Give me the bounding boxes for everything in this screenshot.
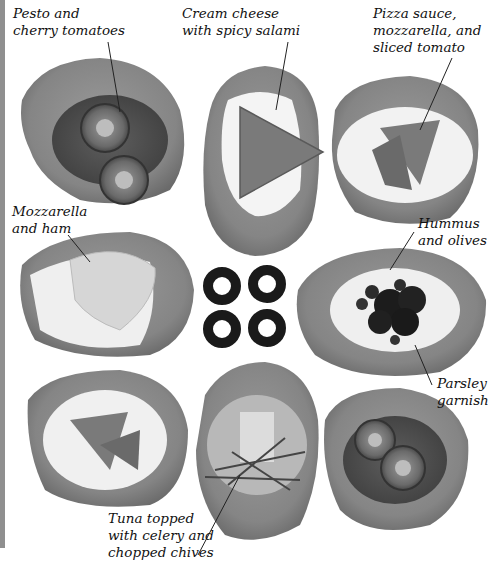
olive-ring <box>208 315 236 343</box>
crostini-pesto-2 <box>324 388 468 530</box>
label-mozzarella-ham: Mozzarella and ham <box>12 203 87 237</box>
olive-ring <box>208 272 236 300</box>
label-hummus: Hummus and olives <box>418 215 487 249</box>
crostini-tuna <box>196 362 319 540</box>
label-pesto: Pesto and cherry tomatoes <box>13 5 125 39</box>
celery-piece <box>240 412 274 462</box>
crostini-mozzarella-ham <box>20 232 194 357</box>
label-cream-cheese: Cream cheese with spicy salami <box>182 5 300 39</box>
label-pizza: Pizza sauce, mozzarella, and sliced toma… <box>373 5 481 56</box>
crostini-pizza <box>332 76 479 224</box>
olive-ring <box>253 270 281 298</box>
crostini-cream-cheese <box>203 66 323 256</box>
crostini-tomato-mozzarella <box>28 370 188 507</box>
tomato-slice <box>381 446 425 490</box>
crostini-pesto <box>21 58 184 204</box>
label-parsley: Parsley garnish <box>437 375 489 409</box>
olive-ring <box>253 314 281 342</box>
tomato-slice <box>81 104 129 152</box>
tomato-slice <box>100 156 148 204</box>
label-tuna: Tuna topped with celery and chopped chiv… <box>108 510 214 561</box>
olive-rings <box>208 270 281 343</box>
